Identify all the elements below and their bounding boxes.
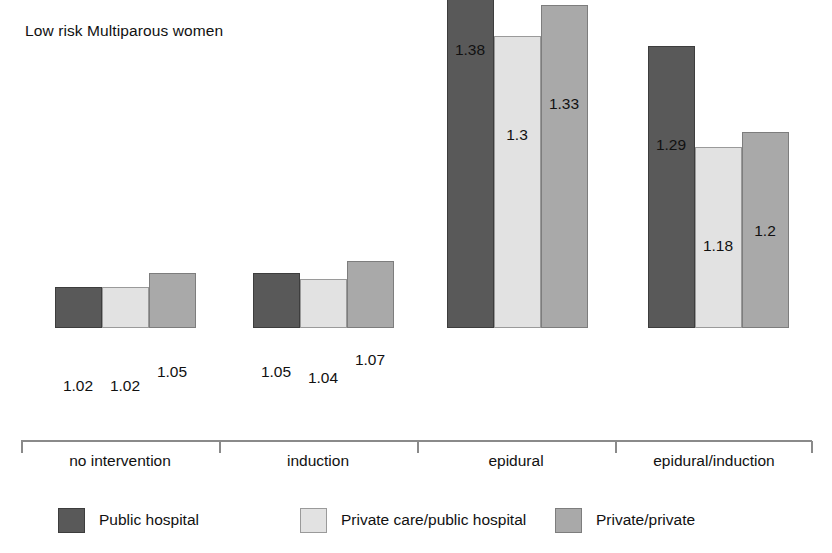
bar: [648, 46, 695, 328]
category-label: epidural/induction: [653, 452, 775, 470]
bar: [347, 261, 394, 328]
axis-tick: [417, 441, 419, 453]
bar: [300, 279, 347, 328]
legend-swatch-icon: [300, 508, 327, 533]
category-label: induction: [287, 452, 349, 470]
axis-tick: [219, 441, 221, 453]
legend-label: Public hospital: [99, 511, 199, 529]
plot-area: 1.021.021.051.051.041.071.381.31.331.291…: [0, 0, 832, 441]
legend-item[interactable]: Private care/public hospital: [300, 503, 526, 537]
axis-tick: [811, 441, 813, 453]
bar-value-label: 1.33: [534, 95, 594, 113]
bar-chart: Low risk Multiparous women 1.021.021.051…: [0, 0, 832, 553]
legend-item[interactable]: Private/private: [555, 503, 695, 537]
bar-value-label: 1.05: [142, 363, 202, 381]
bar: [494, 36, 541, 328]
bar: [253, 273, 300, 328]
legend-swatch-icon: [58, 508, 85, 533]
bar: [55, 287, 102, 328]
legend-label: Private care/public hospital: [341, 511, 526, 529]
legend-swatch-icon: [555, 508, 582, 533]
chart-legend: Public hospitalPrivate care/public hospi…: [0, 503, 832, 543]
bar: [102, 287, 149, 328]
bar: [149, 273, 196, 328]
bar-value-label: 1.04: [293, 369, 353, 387]
bar-value-label: 1.29: [641, 136, 701, 154]
legend-label: Private/private: [596, 511, 695, 529]
axis-tick: [21, 441, 23, 453]
legend-item[interactable]: Public hospital: [58, 503, 199, 537]
axis-tick: [615, 441, 617, 453]
bar-value-label: 1.2: [735, 222, 795, 240]
bar-value-label: 1.07: [340, 351, 400, 369]
bar-value-label: 1.3: [487, 126, 547, 144]
category-label: epidural: [488, 452, 543, 470]
bar-value-label: 1.38: [440, 41, 500, 59]
bar: [541, 5, 588, 328]
category-label: no intervention: [69, 452, 171, 470]
